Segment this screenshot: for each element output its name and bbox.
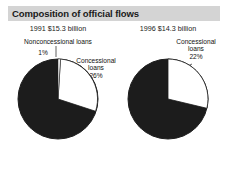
slice-label-pct: 73% xyxy=(59,140,73,147)
slice-label-grants-1996: Grants 78% xyxy=(153,146,193,154)
pie-svg-1996 xyxy=(127,58,209,140)
page-title: Composition of official flows xyxy=(12,6,212,21)
pie-svg-1991 xyxy=(17,58,99,140)
pie-panel-1991: 1991 $15.3 billion Nonconcessional loans… xyxy=(4,24,112,174)
slice-label-pct: 78% xyxy=(177,146,191,153)
slice-label-name: Grants xyxy=(37,140,57,147)
slice-label-name: Grants xyxy=(155,146,175,153)
chart-figure: Composition of official flows 1991 $15.3… xyxy=(0,0,227,175)
pie-chart-1991: Grants 73% xyxy=(17,58,99,140)
pie-panel-1996: 1996 $14.3 billion Concessional loans 22… xyxy=(114,24,222,174)
slice-label-grants-1991: Grants 73% xyxy=(35,140,75,148)
pie-chart-1996: Grants 78% xyxy=(127,58,209,140)
